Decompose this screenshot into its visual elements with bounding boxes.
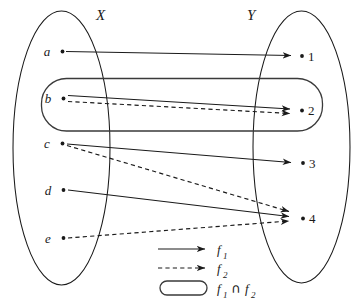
legend: f 1 f 2 f 1 ∩ f 2 bbox=[158, 242, 256, 300]
codomain-ellipse-group: Y bbox=[247, 7, 350, 283]
node-e[interactable]: e bbox=[45, 231, 65, 246]
node-4[interactable]: 4 bbox=[301, 211, 316, 226]
node-label-4: 4 bbox=[309, 211, 316, 226]
legend-item-f1: f 1 bbox=[158, 242, 228, 261]
legend-item-f2: f 2 bbox=[158, 261, 228, 280]
node-label-e: e bbox=[45, 231, 51, 246]
legend-label-f2-sub: 2 bbox=[223, 270, 228, 280]
codomain-set-label: Y bbox=[247, 7, 257, 23]
legend-label-f1-cap-sub: 1 bbox=[223, 290, 228, 300]
node-dot-c bbox=[61, 142, 65, 146]
intersection-operator-icon: ∩ bbox=[231, 281, 241, 296]
codomain-nodes: 1 2 3 4 bbox=[300, 49, 316, 227]
edge-c-to-4-dashed bbox=[67, 146, 289, 212]
legend-label-f1-sub: 1 bbox=[223, 251, 228, 261]
node-dot-4 bbox=[301, 217, 305, 221]
node-dot-a bbox=[61, 50, 65, 54]
node-label-b: b bbox=[45, 91, 52, 106]
node-c[interactable]: c bbox=[44, 136, 64, 151]
node-dot-e bbox=[62, 236, 66, 240]
node-dot-2 bbox=[300, 109, 304, 113]
edge-a-to-1 bbox=[66, 52, 291, 56]
node-3[interactable]: 3 bbox=[301, 156, 315, 171]
node-dot-3 bbox=[301, 161, 305, 165]
function-mapping-diagram: X Y a b c d bbox=[0, 0, 358, 302]
legend-label-f2-cap-sub: 2 bbox=[251, 290, 256, 300]
node-a[interactable]: a bbox=[44, 44, 65, 59]
intersection-region bbox=[42, 79, 323, 132]
node-label-a: a bbox=[44, 44, 51, 59]
node-d[interactable]: d bbox=[45, 183, 66, 198]
domain-nodes: a b c d e bbox=[44, 44, 66, 246]
node-label-1: 1 bbox=[308, 49, 315, 64]
rounded-region-icon bbox=[160, 281, 207, 295]
codomain-ellipse bbox=[253, 11, 350, 283]
f1-edges bbox=[66, 52, 291, 217]
node-label-3: 3 bbox=[309, 156, 316, 171]
edge-e-to-4-dashed bbox=[68, 221, 289, 238]
legend-item-f1-cap-f2: f 1 ∩ f 2 bbox=[160, 281, 256, 300]
domain-set-label: X bbox=[95, 7, 106, 23]
edge-c-to-3 bbox=[67, 144, 291, 163]
f2-edges bbox=[67, 102, 290, 239]
node-b[interactable]: b bbox=[45, 91, 66, 106]
node-dot-1 bbox=[300, 54, 304, 58]
node-dot-b bbox=[62, 97, 66, 101]
node-label-d: d bbox=[45, 183, 52, 198]
node-1[interactable]: 1 bbox=[300, 49, 314, 64]
node-2[interactable]: 2 bbox=[300, 103, 314, 118]
node-label-c: c bbox=[44, 136, 50, 151]
node-label-2: 2 bbox=[308, 103, 315, 118]
node-dot-d bbox=[62, 188, 66, 192]
